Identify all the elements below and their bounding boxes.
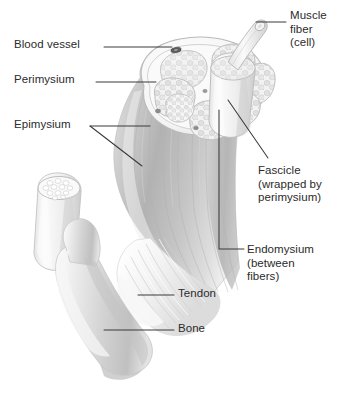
blood-vessel-secondary <box>155 109 160 113</box>
label-epimysium: Epimysium <box>14 118 71 132</box>
label-fascicle: Fascicle (wrapped by perimysium) <box>258 164 322 205</box>
label-endomysium: Endomysium (between fibers) <box>247 243 314 284</box>
label-tendon: Tendon <box>178 287 216 301</box>
label-perimysium: Perimysium <box>14 73 75 87</box>
blood-vessel-secondary <box>194 126 199 130</box>
muscle-cross-section <box>141 37 275 140</box>
blood-vessel-secondary <box>203 89 207 92</box>
label-bone: Bone <box>178 322 205 336</box>
label-blood-vessel: Blood vessel <box>14 38 80 52</box>
label-muscle-fiber: Muscle fiber (cell) <box>290 9 327 50</box>
muscle-anatomy-figure: Blood vessel Perimysium Epimysium Muscle… <box>0 0 351 393</box>
